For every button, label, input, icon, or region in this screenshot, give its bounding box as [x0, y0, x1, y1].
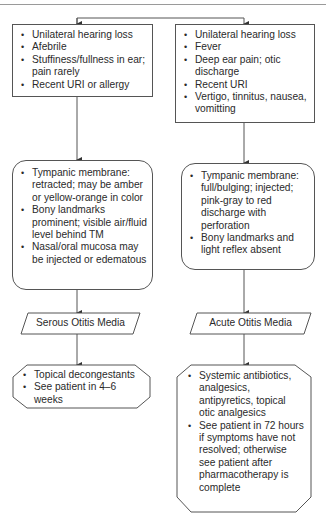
left-treatment-box: Topical decongestants See patient in 4–6…: [15, 369, 149, 406]
right-treatment-box: Systemic antibiotics, analgesics, antipy…: [180, 370, 308, 494]
finding-item: Deep ear pain; otic discharge: [180, 54, 310, 79]
finding-item: Recent URI or allergy: [17, 79, 148, 91]
finding-item: Stuffiness/fullness in ear; pain rarely: [17, 54, 148, 79]
finding-item: Unilateral hearing loss: [17, 29, 148, 41]
exam-item: Bony landmarks and light reflex absent: [186, 232, 310, 257]
finding-item: Recent URI: [180, 79, 310, 91]
treatment-item: See patient in 4–6 weeks: [19, 381, 145, 406]
exam-item: Tympanic membrane: full/bulging; injecte…: [186, 170, 310, 232]
exam-item: Nasal/oral mucosa may be injected or ede…: [17, 241, 148, 266]
exam-item: Tympanic membrane: retracted; may be amb…: [17, 167, 148, 204]
treatment-item: Systemic antibiotics, analgesics, antipy…: [184, 370, 304, 420]
left-findings-box: Unilateral hearing loss Afebrile Stuffin…: [12, 24, 153, 97]
left-diagnosis-label: Serous Otitis Media: [21, 317, 140, 329]
finding-item: Vertigo, tinnitus, nausea, vomitting: [180, 91, 310, 116]
treatment-item: Topical decongestants: [19, 369, 145, 381]
left-exam-box: Tympanic membrane: retracted; may be amb…: [12, 160, 153, 290]
right-findings-box: Unilateral hearing loss Fever Deep ear p…: [175, 24, 315, 123]
finding-item: Afebrile: [17, 41, 148, 53]
treatment-item: See patient in 72 hours if symptoms have…: [184, 420, 304, 494]
right-exam-box: Tympanic membrane: full/bulging; injecte…: [181, 163, 315, 270]
exam-item: Bony landmarks prominent; visible air/fl…: [17, 204, 148, 241]
finding-item: Fever: [180, 41, 310, 53]
right-diagnosis-label: Acute Otitis Media: [190, 317, 311, 329]
finding-item: Unilateral hearing loss: [180, 29, 310, 41]
